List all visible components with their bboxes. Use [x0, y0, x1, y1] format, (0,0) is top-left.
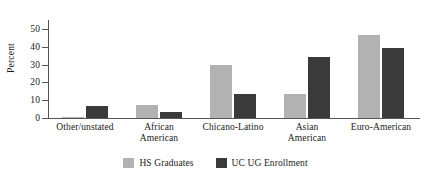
bar-group [344, 20, 418, 118]
bar [382, 48, 404, 118]
legend-entry: HS Graduates [123, 158, 193, 168]
legend-label: UC UG Enrollment [232, 158, 308, 168]
chart-legend: HS GraduatesUC UG Enrollment [0, 158, 431, 168]
chart-figure: 01020304050 Percent Other/unstatedAfrica… [0, 0, 431, 183]
bar [210, 65, 232, 118]
y-axis-tick-label: 30 [30, 60, 40, 70]
bar [308, 57, 330, 118]
bar [62, 117, 84, 118]
y-axis-tick-label: 20 [30, 77, 40, 87]
bar-group [122, 20, 196, 118]
bar [136, 105, 158, 118]
y-axis-tick-label: 50 [30, 24, 40, 34]
x-axis-line [48, 118, 420, 119]
x-axis-category-label: Euro-American [332, 122, 430, 133]
bar [358, 35, 380, 118]
legend-swatch-icon [123, 158, 134, 168]
legend-entry: UC UG Enrollment [216, 158, 308, 168]
y-axis-tick [42, 118, 48, 119]
y-axis-tick-label: 40 [30, 42, 40, 52]
legend-swatch-icon [216, 158, 227, 168]
bar [160, 112, 182, 118]
bar [234, 94, 256, 118]
legend-label: HS Graduates [139, 158, 193, 168]
bar [284, 94, 306, 118]
bar [86, 106, 108, 118]
bar-group [270, 20, 344, 118]
y-axis-title: Percent [6, 28, 16, 88]
bar-group [196, 20, 270, 118]
y-axis-tick-label: 10 [30, 95, 40, 105]
plot-area [48, 20, 418, 118]
bar-group [48, 20, 122, 118]
